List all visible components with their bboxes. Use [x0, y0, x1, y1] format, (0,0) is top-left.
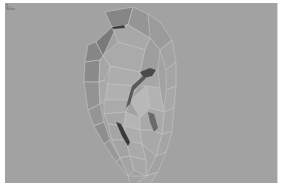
axis-icon	[5, 3, 17, 11]
ear-model[interactable]	[5, 3, 277, 183]
viewport-border	[277, 3, 278, 183]
3d-viewport[interactable]	[5, 3, 277, 183]
